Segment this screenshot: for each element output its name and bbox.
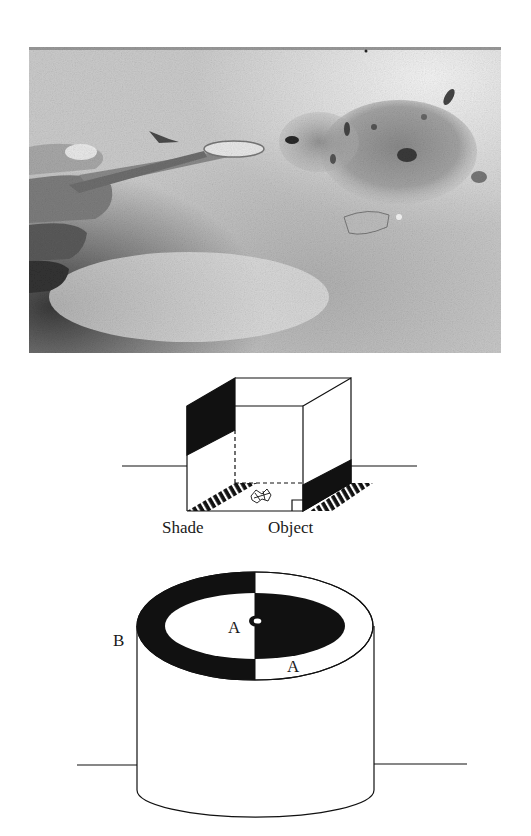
shade-label: Shade — [162, 518, 204, 537]
label-b: B — [113, 631, 124, 650]
figure: Shade Object B A A — [0, 0, 531, 836]
left-wall-black-panel — [187, 378, 235, 455]
object-glyph — [251, 489, 271, 503]
diagrams: Shade Object B A A — [0, 0, 531, 836]
object-label: Object — [268, 518, 314, 537]
box-diagram: Shade Object — [122, 378, 417, 537]
shade-hatch — [187, 483, 257, 511]
label-a-rim: A — [287, 657, 300, 676]
label-a-center: A — [228, 618, 241, 637]
cylinder-diagram: B A A — [77, 572, 467, 817]
